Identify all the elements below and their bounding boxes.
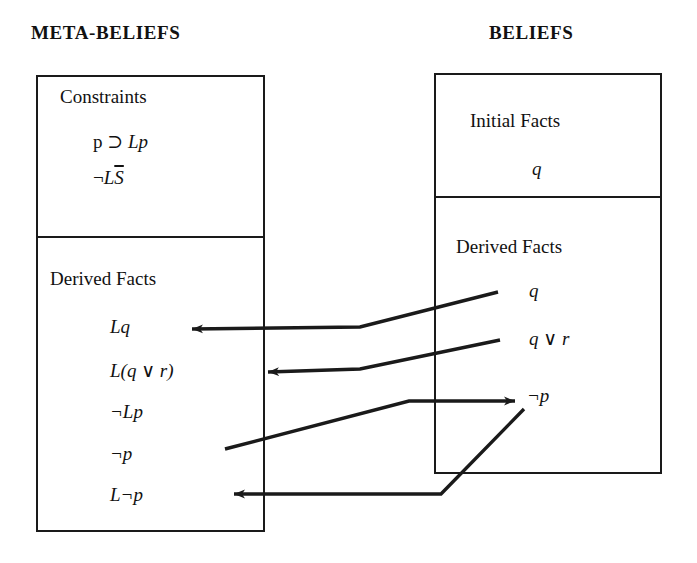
beliefs-derived-facts-heading: Derived Facts [456, 236, 562, 258]
meta-derived-fact-3: ¬p [110, 443, 132, 465]
beliefs-panel-divider [434, 196, 662, 198]
meta-derived-fact-2: ¬Lp [110, 401, 143, 423]
meta-derived-facts-heading: Derived Facts [50, 268, 156, 290]
column-title-beliefs: BELIEFS [489, 22, 573, 44]
constraints-heading: Constraints [60, 86, 147, 108]
meta-derived-fact-1: L(q ∨ r) [110, 359, 174, 382]
initial-fact-0: q [532, 158, 542, 180]
meta-derived-fact-0: Lq [110, 316, 130, 338]
column-title-meta-beliefs: META-BELIEFS [31, 22, 180, 44]
initial-facts-heading: Initial Facts [470, 110, 560, 132]
beliefs-derived-fact-0: q [529, 280, 539, 302]
diagram-canvas: META-BELIEFS BELIEFS Constraints p ⊃ Lp … [0, 0, 697, 563]
meta-beliefs-panel-divider [36, 236, 265, 238]
beliefs-panel [434, 73, 662, 474]
beliefs-derived-fact-2: ¬p [527, 385, 549, 407]
beliefs-derived-fact-1: q ∨ r [529, 327, 569, 350]
meta-beliefs-panel [36, 75, 265, 532]
constraint-formula-0: p ⊃ Lp [93, 130, 148, 153]
constraint-formula-1: ¬LS [93, 167, 124, 189]
meta-derived-fact-4: L¬p [110, 484, 143, 506]
